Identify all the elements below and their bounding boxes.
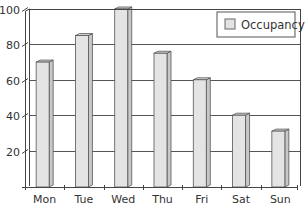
bar: [75, 36, 88, 187]
legend: Occupancy: [217, 12, 305, 37]
bar-side: [128, 7, 132, 187]
y-tick-label: 80: [6, 39, 20, 52]
bar-chart: 20406080100 MonTueWedThuFriSatSun Occupa…: [0, 0, 307, 208]
bar-side: [49, 60, 53, 187]
x-tick-label: Sun: [270, 193, 291, 206]
y-tick-label: 100: [0, 4, 20, 17]
y-tick-mark: [22, 8, 28, 12]
bar: [272, 131, 285, 187]
x-tick-label: Fri: [195, 193, 208, 206]
y-tick-label: 40: [6, 110, 20, 123]
legend-label: Occupancy: [241, 18, 305, 32]
x-tick-label: Wed: [111, 193, 135, 206]
legend-swatch: [225, 19, 235, 29]
bar-side: [285, 129, 289, 187]
bar-side: [206, 78, 210, 187]
bar: [193, 80, 206, 187]
y-tick-label: 20: [6, 146, 20, 159]
bar: [233, 115, 246, 187]
y-tick-label: 60: [6, 75, 20, 88]
x-tick-label: Mon: [33, 193, 56, 206]
bar-side: [88, 34, 92, 187]
x-axis-ticks: MonTueWedThuFriSatSun: [26, 185, 298, 206]
y-axis-ticks: 20406080100: [0, 4, 28, 159]
bar-side: [167, 51, 171, 187]
bar: [115, 9, 128, 187]
bar-side: [246, 113, 250, 187]
bar: [154, 53, 167, 187]
bar: [36, 62, 49, 187]
x-tick-label: Tue: [74, 193, 94, 206]
x-tick-label: Thu: [151, 193, 173, 206]
x-tick-label: Sat: [232, 193, 251, 206]
